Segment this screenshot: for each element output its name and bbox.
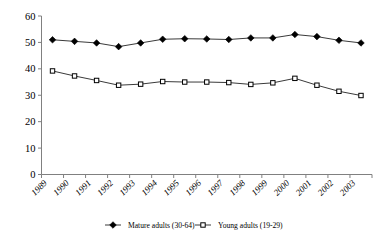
data-point-1-2000 [292, 31, 299, 38]
x-tick-label-1994: 1994 [139, 177, 159, 197]
x-tick-label-1993: 1993 [117, 177, 137, 197]
data-point-2-1997 [227, 80, 231, 84]
data-point-1-1991 [93, 40, 100, 47]
data-point-1-1989 [49, 36, 56, 43]
data-point-1-1996 [203, 36, 210, 43]
data-point-2-1996 [205, 80, 209, 84]
x-tick-label-1989: 1989 [29, 177, 49, 197]
x-axis-ticks [42, 175, 373, 179]
series-2 [50, 69, 363, 98]
data-point-1-2003 [358, 40, 365, 47]
y-tick-label-30: 30 [25, 90, 36, 101]
y-tick-label-0: 0 [30, 169, 35, 180]
y-axis-ticks [38, 16, 42, 175]
data-point-2-2000 [293, 76, 297, 80]
data-point-1-2001 [314, 33, 321, 40]
data-point-2-2003 [359, 93, 363, 97]
data-point-2-1992 [116, 83, 120, 87]
data-point-2-1993 [138, 82, 142, 86]
data-point-1-2002 [336, 37, 343, 44]
data-point-1-1994 [159, 36, 166, 43]
y-axis-labels: 0102030405060 [25, 11, 36, 181]
x-tick-label-2001: 2001 [294, 178, 314, 198]
y-tick-label-40: 40 [25, 63, 36, 74]
data-point-2-1995 [183, 80, 187, 84]
x-tick-label-1995: 1995 [161, 177, 181, 197]
x-tick-label-1992: 1992 [95, 177, 115, 197]
data-point-2-2001 [315, 83, 319, 87]
x-axis-labels: 1989199019911992199319941995199619971998… [29, 177, 358, 197]
data-point-2-2002 [337, 89, 341, 93]
x-tick-label-1991: 1991 [73, 178, 93, 198]
y-tick-label-50: 50 [25, 37, 36, 48]
data-point-2-1990 [72, 74, 76, 78]
data-point-1-1998 [248, 35, 255, 42]
data-point-1-1990 [71, 38, 78, 45]
chart-canvas: 0102030405060 19891990199119921993199419… [0, 0, 382, 249]
data-series-layer [49, 31, 364, 98]
data-point-2-1999 [271, 81, 275, 85]
legend-marker-1 [110, 222, 117, 229]
legend-label-1: Mature adults (30-64) [128, 221, 195, 230]
x-tick-label-1999: 1999 [249, 177, 269, 197]
legend-label-2: Young adults (19-29) [218, 221, 283, 230]
series-1 [49, 31, 364, 50]
data-point-1-1993 [137, 40, 144, 47]
x-tick-label-1997: 1997 [205, 177, 225, 197]
data-point-1-1999 [270, 35, 277, 42]
data-point-1-1992 [115, 43, 122, 50]
legend-marker-2 [201, 223, 205, 227]
x-tick-label-1998: 1998 [227, 177, 247, 197]
chart-legend: Mature adults (30-64)Young adults (19-29… [105, 221, 283, 230]
data-point-2-1991 [94, 78, 98, 82]
y-tick-label-10: 10 [25, 143, 36, 154]
x-tick-label-2002: 2002 [316, 177, 336, 197]
data-point-2-1989 [50, 69, 54, 73]
x-tick-label-1996: 1996 [183, 177, 203, 197]
data-point-1-1995 [181, 35, 188, 42]
x-tick-label-2003: 2003 [338, 177, 358, 197]
y-tick-label-20: 20 [25, 116, 36, 127]
data-point-2-1998 [249, 82, 253, 86]
x-tick-label-2000: 2000 [271, 177, 291, 197]
y-tick-label-60: 60 [25, 11, 36, 22]
data-point-1-1997 [225, 36, 232, 43]
line-chart: 0102030405060 19891990199119921993199419… [0, 0, 382, 249]
data-point-2-1994 [160, 79, 164, 83]
x-tick-label-1990: 1990 [51, 177, 71, 197]
